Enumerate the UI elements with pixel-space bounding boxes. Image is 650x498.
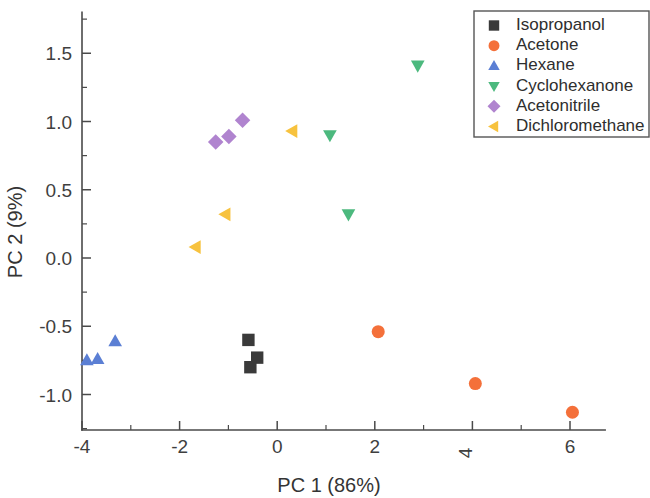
y-tick-label: 0.0 — [46, 248, 72, 269]
x-tick-label-rotated: 4 — [455, 447, 476, 458]
data-point-marker — [189, 240, 201, 254]
y-axis-tick-labels: -1.0-0.50.00.51.01.5 — [39, 43, 72, 405]
legend-item-label: Cyclohexanone — [516, 76, 633, 95]
legend-item-label: Acetonitrile — [516, 96, 600, 115]
data-point-marker — [469, 377, 482, 390]
x-tick-label: 0 — [272, 436, 283, 457]
series-isopropanol — [242, 334, 263, 374]
data-point-marker — [221, 129, 237, 145]
x-axis-title: PC 1 (86%) — [277, 474, 380, 496]
data-point-marker — [566, 406, 579, 419]
series-cyclohexanone — [323, 61, 424, 222]
scatter-plot-figure: -4-20246 -1.0-0.50.00.51.01.5 PC 1 (86%)… — [0, 0, 650, 498]
series-dichloromethane — [189, 124, 298, 254]
x-tick-label: -4 — [74, 436, 91, 457]
series-acetonitrile — [208, 112, 250, 149]
data-point-marker — [342, 209, 356, 221]
y-tick-label: 1.5 — [46, 43, 72, 64]
legend-item-label: Hexane — [516, 55, 575, 74]
data-point-marker — [244, 361, 256, 373]
data-point-marker — [208, 134, 224, 150]
legend: IsopropanolAcetoneHexaneCyclohexanoneAce… — [474, 11, 649, 137]
legend-marker-square-icon — [489, 20, 499, 30]
legend-item-label: Dichloromethane — [516, 116, 645, 135]
data-point-marker — [285, 124, 297, 138]
y-tick-label: -0.5 — [39, 316, 72, 337]
data-point-marker — [91, 352, 105, 364]
data-point-marker — [218, 208, 230, 222]
data-point-marker — [242, 334, 254, 346]
x-axis-ticks — [82, 421, 570, 430]
y-axis-ticks — [82, 19, 91, 429]
legend-marker-circle-icon — [489, 40, 500, 51]
x-axis-tick-labels: -4-20246 — [74, 436, 576, 458]
legend-item-label: Acetone — [516, 35, 578, 54]
y-tick-label: 0.5 — [46, 180, 72, 201]
data-point-marker — [411, 61, 425, 73]
x-tick-label: 2 — [370, 436, 381, 457]
plot-canvas: -4-20246 -1.0-0.50.00.51.01.5 PC 1 (86%)… — [0, 0, 650, 498]
data-point-marker — [372, 325, 385, 338]
data-point-marker — [108, 334, 122, 346]
y-axis-title: PC 2 (9%) — [4, 186, 26, 278]
data-point-marker — [323, 130, 337, 142]
data-point-marker — [235, 112, 251, 128]
y-tick-label: -1.0 — [39, 385, 72, 406]
y-tick-label: 1.0 — [46, 112, 72, 133]
series-hexane — [80, 334, 122, 365]
x-tick-label: -2 — [171, 436, 188, 457]
x-tick-label: 6 — [565, 436, 576, 457]
series-acetone — [372, 325, 579, 419]
legend-item-label: Isopropanol — [516, 15, 605, 34]
